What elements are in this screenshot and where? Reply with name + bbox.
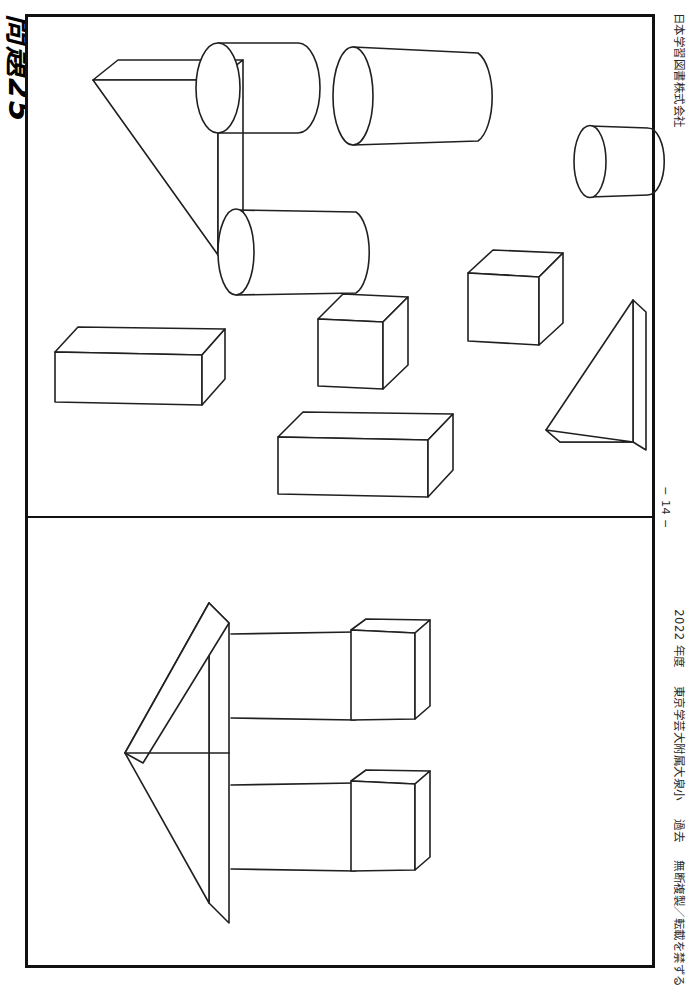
arrow-assembly <box>173 603 653 933</box>
footer-year: 2022 年度 <box>672 609 686 667</box>
composite-assembly <box>28 518 652 965</box>
cylinder-upper-right <box>568 119 678 209</box>
cube-center <box>313 289 418 399</box>
page-number: − 14 − <box>659 473 672 543</box>
solid-shapes-pool <box>28 17 652 516</box>
footer-copyright: 無断複製／転載を禁ずる <box>672 860 686 987</box>
cylinder-upper-left <box>193 35 318 150</box>
cuboid-center-bottom <box>273 402 463 507</box>
cuboid-left <box>50 317 235 417</box>
cylinder-upper-center <box>323 39 508 159</box>
footer-section: 過去 <box>672 819 686 842</box>
triangular-prism-right <box>538 292 653 462</box>
footer-school: 東京学芸大附属大泉小 <box>672 686 686 801</box>
footer-credit: 2022 年度 東京学芸大附属大泉小 過去 無断複製／転載を禁ずる <box>672 578 688 994</box>
